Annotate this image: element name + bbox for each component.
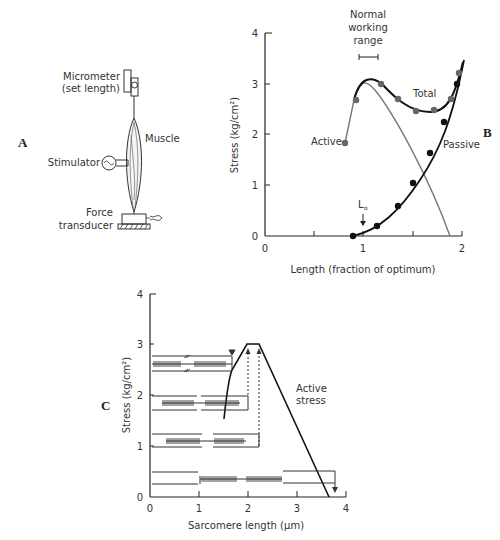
active-stress-curve [224,344,329,497]
passive-label: Passive [443,139,480,150]
panel-b-chart: B 0 1 2 3 4 0 1 2 Length (fraction of op… [229,9,492,275]
active-stress-label: stress [296,395,326,406]
active-curve [345,83,450,236]
b-ytick: 0 [252,231,258,242]
total-label: Total [412,88,436,99]
panel-a-letter: A [18,135,28,150]
c-xtick: 2 [245,503,251,514]
force-transducer-box [122,214,146,224]
micrometer-sub-label: (set length) [62,83,120,94]
lo-sub-label: o [364,204,368,211]
c-xtick: 3 [294,503,300,514]
force-label: Force [86,207,113,218]
normal-range-label: Normal [350,9,386,20]
c-xtick: 0 [147,503,153,514]
b-x-axis-label: Length (fraction of optimum) [291,264,436,275]
active-stress-label: Active [296,383,327,394]
c-ytick: 2 [137,390,143,401]
stimulator-label: Stimulator [48,157,101,168]
c-xtick: 1 [196,503,202,514]
micrometer-dial-icon [132,82,138,88]
b-ytick: 3 [252,79,258,90]
micrometer-label: Micrometer [63,71,121,82]
panel-a-diagram: A Micrometer (set length) Muscle Stimula… [18,70,180,231]
transducer-label: transducer [59,220,114,231]
panel-b-letter: B [483,125,492,140]
normal-range-label: range [353,35,382,46]
total-curve [354,62,463,112]
normal-range-bracket [359,54,378,60]
c-y-axis-label: Stress (kg/cm²) [121,357,132,434]
normal-range-label: working [348,22,388,33]
figure: A Micrometer (set length) Muscle Stimula… [0,0,500,540]
b-xtick: 0 [262,243,268,254]
active-label: Active [311,136,342,147]
arrow-down-icon [332,487,338,493]
transducer-wire-icon [146,215,162,220]
b-xtick: 1 [360,243,366,254]
b-xtick: 2 [459,243,465,254]
sarcomere-diagram-4 [152,471,335,489]
arrow-up-icon [246,348,251,354]
c-ytick: 3 [137,339,143,350]
muscle-label: Muscle [145,133,180,144]
b-ytick: 1 [252,180,258,191]
c-xtick: 4 [343,503,349,514]
c-ytick: 1 [137,441,143,452]
panel-c-letter: C [101,398,110,413]
b-ytick: 2 [252,129,258,140]
panel-c-chart: C 0 1 2 3 4 0 1 2 3 4 Sarcomere length (… [101,289,349,531]
c-ytick: 0 [137,492,143,503]
c-ytick: 4 [137,289,143,300]
micrometer-body [124,70,131,92]
b-y-axis-label: Stress (kg/cm²) [229,97,240,174]
c-x-axis-label: Sarcomere length (µm) [188,520,304,531]
b-ytick: 4 [252,28,258,39]
